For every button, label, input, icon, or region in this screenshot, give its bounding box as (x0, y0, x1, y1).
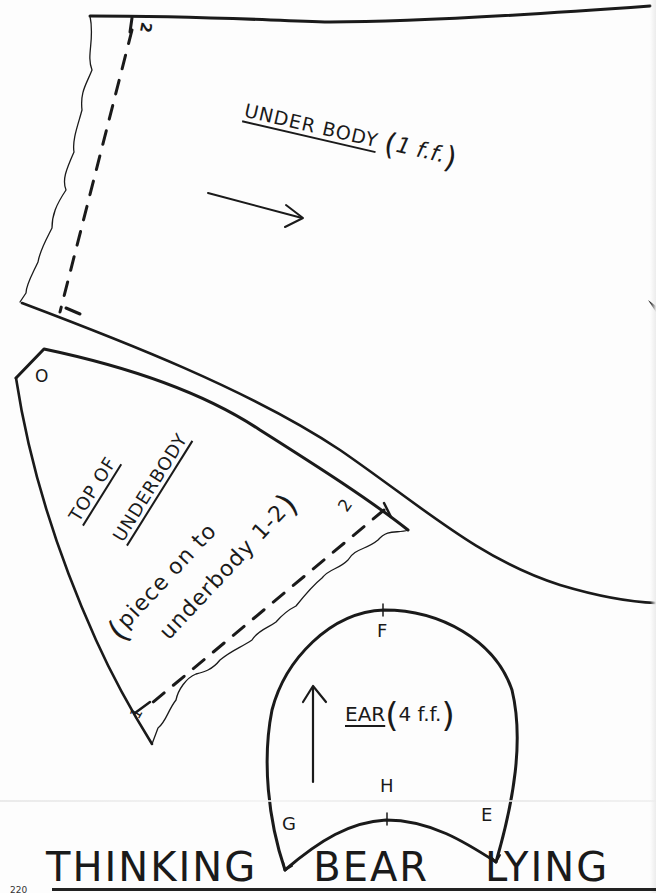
page-title-word-3: LYING (485, 844, 609, 890)
ear-outline (267, 604, 517, 870)
ear-point-e: E (481, 806, 492, 824)
under-body-seam-line (60, 30, 132, 312)
page-title-word-1: THINKING (46, 844, 257, 890)
under-body-outline (20, 6, 656, 603)
ear-paren-close: ) (441, 695, 454, 735)
footer-rule (52, 888, 656, 891)
ear-point-f: F (377, 622, 387, 640)
ear-label: EAR(4 f.f.) (345, 698, 455, 732)
arrow-right-icon (208, 193, 303, 227)
ear-point-h: H (380, 777, 394, 795)
page-title: THINKING BEAR LYING (46, 844, 606, 890)
arrow-up-icon (303, 686, 326, 782)
ear-paren-open: ( (385, 695, 398, 735)
ear-point-g: G (282, 815, 296, 833)
under-body-marker-tick-bottom (66, 308, 80, 314)
top-of-underbody-marker-o: O (35, 368, 48, 385)
scan-artifact-streak (0, 800, 656, 802)
under-body-marker-tick-top (130, 18, 132, 32)
page-edge-shadow (650, 0, 656, 893)
ear-quantity: 4 f.f. (398, 702, 441, 726)
ear-title: EAR (345, 702, 385, 726)
page-number: 220 (10, 885, 27, 893)
page-title-word-2: BEAR (313, 844, 429, 890)
pattern-page: UNDER BODY (1 f.f.) 2 TOP OF UNDERBODY (… (0, 0, 656, 893)
